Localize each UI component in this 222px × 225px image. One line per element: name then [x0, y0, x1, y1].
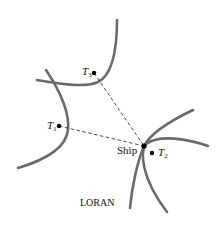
- diagram-caption: LORAN: [80, 198, 114, 208]
- label-t2-sub: 2: [164, 152, 168, 160]
- label-t3-sub: 3: [88, 71, 92, 79]
- point-t2: [150, 151, 154, 155]
- label-t2: T2: [158, 147, 168, 160]
- diagram-canvas: [0, 0, 222, 225]
- point-t3: [92, 71, 96, 75]
- point-ship: [141, 143, 146, 148]
- point-t1: [57, 124, 61, 128]
- label-t3: T3: [82, 66, 92, 79]
- label-t1-sub: 1: [53, 125, 57, 133]
- label-ship: Ship: [117, 145, 137, 156]
- loran-diagram: T3 T1 T2 Ship LORAN: [0, 0, 222, 225]
- dashed-line-t3-ship: [94, 73, 144, 146]
- dashed-line-t1-ship: [59, 126, 144, 146]
- label-t1: T1: [47, 120, 57, 133]
- hyperbola-branch-t2-lower: [143, 138, 208, 212]
